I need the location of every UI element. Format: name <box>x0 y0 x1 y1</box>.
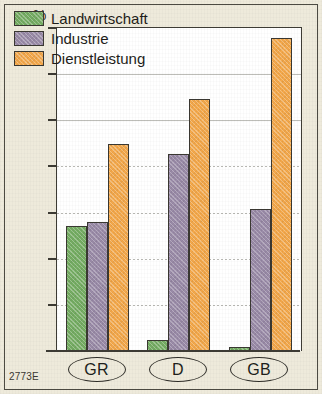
legend-item: Industrie <box>14 30 148 47</box>
y-axis-tick <box>48 73 57 75</box>
legend-item: Landwirtschaft <box>14 10 148 27</box>
source-code-label: 2773E <box>9 371 39 382</box>
x-axis-baseline <box>46 350 300 352</box>
chart-figure: % 010203040506070 Landwirtschaft Industr… <box>0 0 322 394</box>
plot-area: 010203040506070 <box>56 27 302 351</box>
legend-swatch-dienstleistung <box>14 51 44 66</box>
bar <box>87 222 108 351</box>
category-label-d: D <box>149 357 207 382</box>
y-axis-tick <box>48 165 57 167</box>
gridline <box>57 74 301 75</box>
y-axis-tick <box>48 212 57 214</box>
legend-item: Dienstleistung <box>14 50 148 67</box>
bar <box>66 226 87 351</box>
legend-swatch-industrie <box>14 31 44 46</box>
y-axis-tick <box>48 304 57 306</box>
bar <box>250 209 271 351</box>
y-axis-tick <box>48 119 57 121</box>
bar <box>108 144 129 351</box>
bar <box>189 99 210 351</box>
legend-swatch-landwirtschaft <box>14 11 44 26</box>
gridline <box>57 120 301 121</box>
bar <box>168 154 189 351</box>
category-label-gb: GB <box>230 357 288 382</box>
bar <box>271 38 292 351</box>
chart-legend: Landwirtschaft Industrie Dienstleistung <box>14 10 148 70</box>
legend-label: Dienstleistung <box>51 51 145 66</box>
legend-label: Industrie <box>51 31 109 46</box>
y-axis-tick <box>48 258 57 260</box>
legend-label: Landwirtschaft <box>51 11 148 26</box>
category-label-gr: GR <box>68 357 126 382</box>
